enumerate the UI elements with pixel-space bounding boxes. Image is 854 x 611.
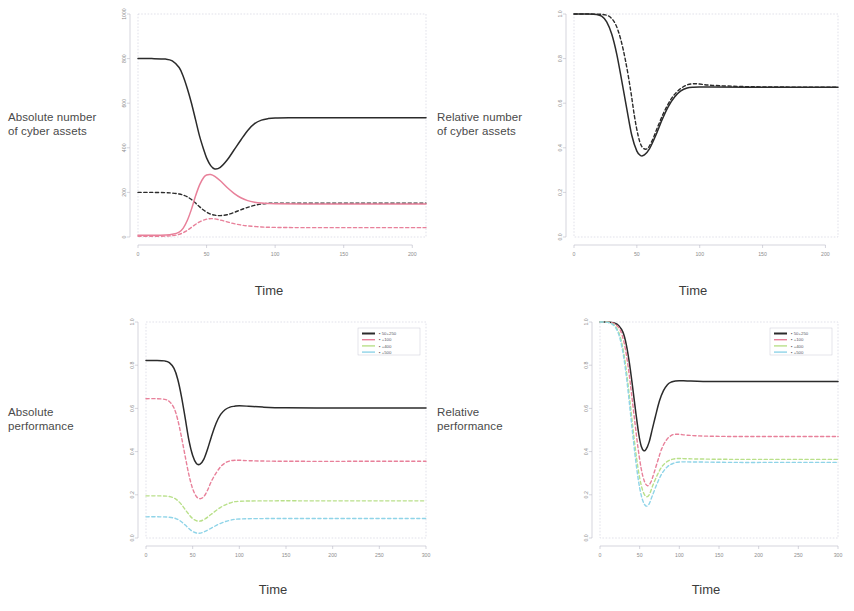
- row-label-relative-performance: Relativeperformance: [437, 405, 503, 433]
- row-label-absolute-number: Absolute numberof cyber assets: [8, 110, 96, 138]
- y-tick-label: 800: [121, 54, 127, 63]
- legend-label: ▪ +100: [791, 337, 804, 342]
- plot-frame: [574, 14, 838, 237]
- y-tick-label: 0.2: [129, 491, 135, 498]
- x-tick-label: 50: [204, 251, 210, 257]
- xlabel-absolute-number: Time: [104, 283, 434, 298]
- series-line: [146, 496, 426, 521]
- x-tick-label: 200: [821, 251, 830, 257]
- y-tick-label: 0: [121, 235, 127, 238]
- series-line: [146, 360, 426, 464]
- x-tick-label: 250: [794, 552, 803, 558]
- panel-relative-number: 0.00.20.40.60.81.0050100150200: [540, 4, 846, 269]
- x-tick-label: 200: [328, 552, 337, 558]
- chart-relative-number: 0.00.20.40.60.81.0050100150200: [540, 4, 846, 269]
- y-tick-label: 0.8: [129, 361, 135, 368]
- series-line: [574, 14, 838, 149]
- xlabel-absolute-performance: Time: [112, 582, 434, 597]
- y-tick-label: 0.6: [129, 405, 135, 412]
- y-tick-label: 600: [121, 99, 127, 108]
- x-tick-label: 300: [834, 552, 843, 558]
- y-tick-label: 0.8: [557, 55, 563, 62]
- x-tick-label: 0: [145, 552, 148, 558]
- x-tick-label: 100: [235, 552, 244, 558]
- row-label-absolute-performance: Absoluteperformance: [8, 405, 74, 433]
- y-tick-label: 1.0: [557, 10, 563, 17]
- y-tick-label: 0.0: [557, 233, 563, 240]
- legend-label: ▪ 50+250: [379, 331, 397, 336]
- y-tick-label: 400: [121, 143, 127, 152]
- y-tick-label: 0.4: [583, 448, 589, 455]
- y-tick-label: 1.0: [583, 318, 589, 325]
- row-label-relative-number: Relative numberof cyber assets: [437, 110, 522, 138]
- y-tick-label: 0.2: [583, 491, 589, 498]
- series-line: [146, 517, 426, 533]
- x-tick-label: 50: [637, 552, 643, 558]
- legend-label: ▪ +500: [791, 350, 804, 355]
- series-line: [146, 399, 426, 499]
- x-tick-label: 150: [758, 251, 767, 257]
- legend-label: ▪ +500: [379, 350, 392, 355]
- figure-panel-grid: Absolute numberof cyber assets Relative …: [0, 0, 854, 611]
- x-tick-label: 300: [422, 552, 431, 558]
- x-tick-label: 250: [375, 552, 384, 558]
- x-tick-label: 200: [408, 251, 417, 257]
- legend-label: ▪ +400: [791, 344, 804, 349]
- y-tick-label: 0.4: [557, 144, 563, 151]
- x-tick-label: 200: [754, 552, 763, 558]
- y-tick-label: 0.6: [583, 405, 589, 412]
- x-tick-label: 100: [695, 251, 704, 257]
- y-tick-label: 0.6: [557, 99, 563, 106]
- xlabel-relative-number: Time: [540, 283, 846, 298]
- xlabel-relative-performance: Time: [566, 582, 846, 597]
- y-tick-label: 0.4: [129, 448, 135, 455]
- x-tick-label: 0: [137, 251, 140, 257]
- panel-absolute-performance: 0.00.20.40.60.81.0050100150200250300▪ 50…: [112, 312, 434, 570]
- x-tick-label: 150: [282, 552, 291, 558]
- panel-absolute-number: 02004006008001000050100150200: [104, 4, 434, 269]
- legend-label: ▪ +100: [379, 337, 392, 342]
- y-tick-label: 0.0: [129, 534, 135, 541]
- series-line: [138, 59, 426, 170]
- y-tick-label: 1000: [121, 8, 127, 20]
- x-tick-label: 50: [634, 251, 640, 257]
- chart-absolute-number: 02004006008001000050100150200: [104, 4, 434, 269]
- series-line: [138, 219, 426, 237]
- x-tick-label: 50: [190, 552, 196, 558]
- y-tick-label: 1.0: [129, 318, 135, 325]
- x-tick-label: 0: [573, 251, 576, 257]
- y-tick-label: 200: [121, 188, 127, 197]
- legend-label: ▪ 50+250: [791, 331, 809, 336]
- x-tick-label: 150: [339, 251, 348, 257]
- x-tick-label: 0: [599, 552, 602, 558]
- y-tick-label: 0.8: [583, 361, 589, 368]
- x-tick-label: 100: [271, 251, 280, 257]
- y-tick-label: 0.0: [583, 534, 589, 541]
- y-tick-label: 0.2: [557, 189, 563, 196]
- x-tick-label: 150: [715, 552, 724, 558]
- series-line: [138, 174, 426, 235]
- legend-label: ▪ +400: [379, 344, 392, 349]
- panel-relative-performance: 0.00.20.40.60.81.0050100150200250300▪ 50…: [566, 312, 846, 570]
- chart-absolute-performance: 0.00.20.40.60.81.0050100150200250300▪ 50…: [112, 312, 434, 570]
- x-tick-label: 100: [675, 552, 684, 558]
- chart-relative-performance: 0.00.20.40.60.81.0050100150200250300▪ 50…: [566, 312, 846, 570]
